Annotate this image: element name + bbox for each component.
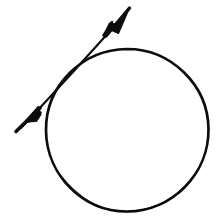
figure-canvas	[0, 0, 218, 221]
line-art-drawing	[0, 0, 218, 221]
